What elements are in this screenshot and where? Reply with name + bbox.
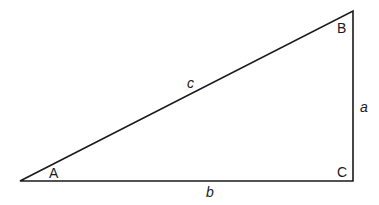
vertex-label-c: C [337, 164, 347, 180]
vertex-label-b: B [337, 20, 346, 36]
side-label-a: a [360, 99, 368, 115]
side-label-c: c [187, 75, 194, 91]
side-label-b: b [206, 184, 214, 200]
triangle-diagram: A B C c b a [0, 0, 379, 205]
triangle-outline [20, 11, 353, 181]
vertex-label-a: A [49, 165, 59, 181]
